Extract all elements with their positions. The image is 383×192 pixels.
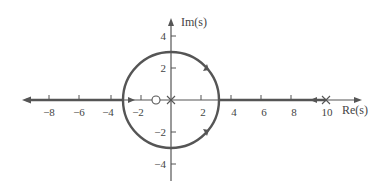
x-tick-label: 4 — [231, 106, 237, 118]
x-tick-labels: −8 −6 −4 −2 2 4 6 8 10 — [43, 106, 333, 118]
x-tick-label: −6 — [73, 106, 85, 118]
x-tick-label: 10 — [322, 106, 334, 118]
x-tick-label: −2 — [132, 106, 144, 118]
x-tick-label: 6 — [261, 106, 267, 118]
x-tick-label: 8 — [291, 106, 297, 118]
x-tick-label: 2 — [200, 106, 206, 118]
y-tick-label: −4 — [154, 158, 166, 170]
x-tick-label: −8 — [43, 106, 55, 118]
locus-arrow-icon — [310, 97, 317, 103]
locus-arrow-icon — [128, 97, 135, 103]
x-tick-label: −4 — [102, 106, 114, 118]
x-axis-label: Re(s) — [342, 103, 368, 117]
locus-arrow-left-icon — [22, 97, 31, 104]
y-tick-label: −2 — [154, 126, 166, 138]
zero-marker-icon — [152, 96, 160, 104]
y-tick-label: 4 — [161, 30, 167, 42]
axis-arrow-up-icon — [168, 18, 174, 26]
y-axis-label: Im(s) — [181, 15, 207, 29]
root-locus-plot: −8 −6 −4 −2 2 4 6 8 10 4 2 −2 −4 Re(s) I… — [0, 0, 383, 192]
y-tick-label: 2 — [161, 62, 167, 74]
